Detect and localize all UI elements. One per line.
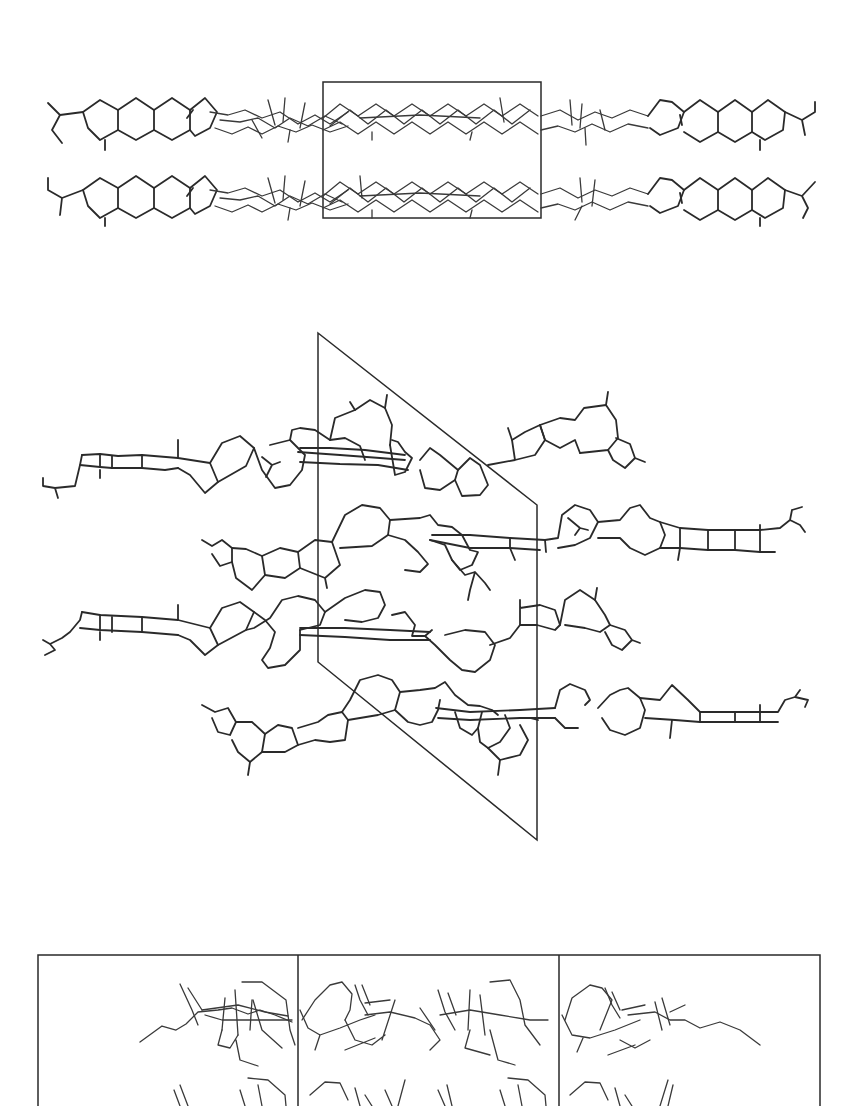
crystal-packing-figure bbox=[0, 0, 856, 1106]
middle-panel bbox=[43, 333, 808, 840]
top-panel bbox=[48, 82, 815, 226]
bottom-cell-1-molecules bbox=[140, 982, 295, 1066]
bottom-cell-2-molecules bbox=[300, 980, 548, 1065]
middle-unit-cell bbox=[318, 333, 537, 840]
top-row-1 bbox=[48, 98, 815, 150]
middle-row-d bbox=[202, 675, 808, 775]
top-unit-cell bbox=[323, 82, 541, 218]
bottom-cell-3-molecules bbox=[562, 985, 760, 1055]
middle-row-a bbox=[43, 392, 645, 498]
middle-row-b bbox=[202, 505, 805, 600]
bottom-panel bbox=[38, 955, 820, 1106]
bottom-row-2-partial bbox=[174, 1078, 673, 1106]
middle-row-c bbox=[43, 588, 640, 672]
